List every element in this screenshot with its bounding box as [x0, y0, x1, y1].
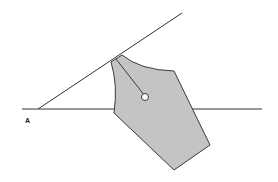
nib-breather-hole: [142, 94, 149, 101]
diagram-canvas: A: [0, 0, 278, 182]
pen-nib-diagram: [0, 0, 278, 182]
vertex-label-a: A: [25, 117, 30, 124]
